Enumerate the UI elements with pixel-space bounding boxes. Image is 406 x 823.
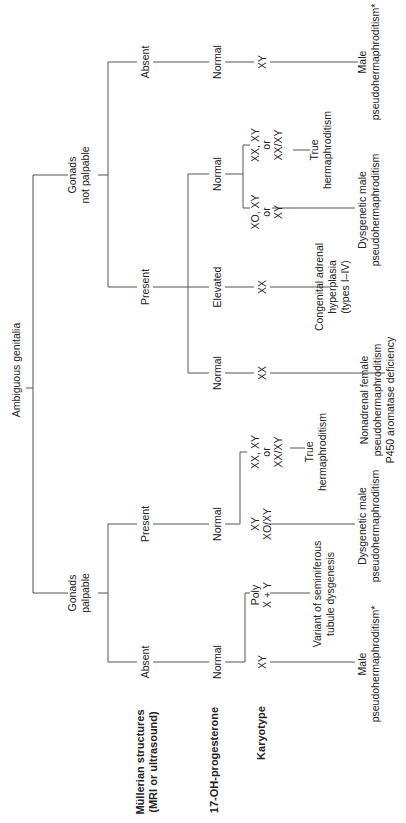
p-d2-line1: Dysgenetic male <box>356 487 368 565</box>
p-mullerian-absent: Absent <box>139 646 151 679</box>
np-d1-line1: Dysgenetic male <box>356 171 368 249</box>
p-absent-karyotype-xy: XY <box>256 655 268 669</box>
np-d1-line2: pseudohermaphroditism <box>369 153 381 266</box>
np-d2-line2: hermaphroditism <box>321 111 333 189</box>
gonads-not-palpable-line2: not palpable <box>79 146 91 203</box>
p-k1-line3: XX/XY <box>272 437 284 468</box>
gonads-palpable-line1: Gonads <box>66 575 78 612</box>
p-absent-ohp-normal: Normal <box>211 645 223 679</box>
cah-line1: Congenital adrenal <box>313 243 325 331</box>
np-ohp-elevated: Elevated <box>211 266 223 307</box>
np-d2-line1: True <box>308 139 320 160</box>
p-present-ohp-normal: Normal <box>211 507 223 541</box>
np-absent-ohp-normal: Normal <box>211 45 223 79</box>
header-mullerian-line2: (MRI or ultrasound) <box>147 711 159 813</box>
p-mullerian-present: Present <box>139 506 151 542</box>
variant-line1: Variant of seminiferous <box>311 541 323 648</box>
p-poly-line1: Poly <box>249 584 261 605</box>
p-male-line2: pseudohermaphroditism* <box>369 606 381 723</box>
np-present-ohp-normal-2: Normal <box>211 356 223 390</box>
header-17-oh-progesterone: 17-OH-progesterone <box>208 707 220 813</box>
decision-tree-diagram: Ambiguous genitalia Gonads not palpable … <box>0 0 406 823</box>
np-k2-line3: XX/XY <box>272 130 284 161</box>
np-absent-diagnosis-1: Male <box>356 50 368 73</box>
gonads-palpable-line2: palpable <box>79 573 91 613</box>
np-k2-line2: or <box>260 140 272 150</box>
np-elevated-karyotype: XX <box>256 280 268 294</box>
np-absent-diagnosis-2: pseudohermaphroditism* <box>369 4 381 121</box>
root-label: Ambiguous genitalia <box>10 323 22 418</box>
variant-line2: tubule dysgenesis <box>324 552 336 636</box>
p-k2-line2: XO/XY <box>261 508 273 540</box>
header-karyotype: Karyotype <box>255 706 267 760</box>
np-present-ohp-normal: Normal <box>211 157 223 191</box>
gonads-not-palpable-line1: Gonads <box>66 157 78 194</box>
nonadrenal-line1: Nonadrenal female <box>358 355 370 444</box>
np-k1-line3: XY <box>272 205 284 219</box>
nonadrenal-line3: P450 aromatase deficiency <box>384 336 396 463</box>
p-k2-line1: XY <box>249 517 261 531</box>
p-d1-line1: True <box>303 441 315 462</box>
cah-line3: (types I–IV) <box>339 260 351 314</box>
p-poly-line2: X + Y <box>261 582 273 608</box>
cah-line2: hyperplasia <box>326 260 338 314</box>
tree-labels: Ambiguous genitalia Gonads not palpable … <box>10 4 396 815</box>
p-k1-line2: or <box>260 447 272 457</box>
np-mullerian-present: Present <box>139 269 151 305</box>
p-male-line1: Male <box>356 652 368 675</box>
np-absent-karyotype: XY <box>256 55 268 69</box>
p-d1-line2: hermaphroditism <box>316 413 328 491</box>
p-d2-line2: pseudohermaphroditism <box>369 469 381 582</box>
np-k1-line2: or <box>260 207 272 217</box>
np-normal2-karyotype: XX <box>256 366 268 380</box>
np-mullerian-absent: Absent <box>139 46 151 79</box>
nonadrenal-line2: pseudohermaphroditism <box>371 343 383 456</box>
header-mullerian-line1: Müllerian structures <box>134 709 146 814</box>
